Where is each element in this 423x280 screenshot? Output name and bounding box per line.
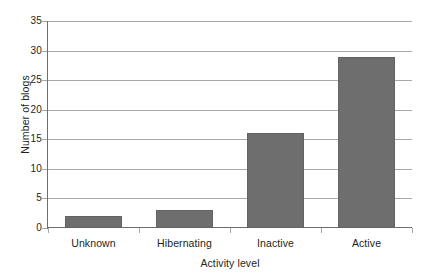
y-axis-tick-label: 35 xyxy=(6,16,42,26)
y-axis-tick-mark xyxy=(42,51,47,52)
gridline xyxy=(48,21,412,22)
y-axis-tick-mark xyxy=(42,198,47,199)
y-axis-tick-mark xyxy=(42,80,47,81)
y-axis-tick-label: 25 xyxy=(6,75,42,85)
x-axis-tick-mark xyxy=(230,228,231,233)
y-axis-tick-mark xyxy=(42,169,47,170)
y-axis-tick-label: 0 xyxy=(6,223,42,233)
y-axis-tick-mark xyxy=(42,139,47,140)
x-axis-tick-mark xyxy=(412,228,413,233)
y-axis-tick-mark xyxy=(42,110,47,111)
bar-unknown xyxy=(65,216,122,228)
y-axis-tick-label: 15 xyxy=(6,134,42,144)
x-axis-tick-label: Active xyxy=(321,236,412,250)
x-axis-tick-label: Inactive xyxy=(230,236,321,250)
y-axis-tick-label: 5 xyxy=(6,193,42,203)
y-axis-tick-label: 10 xyxy=(6,164,42,174)
y-axis-tick-label: 20 xyxy=(6,105,42,115)
y-axis-tick-label: 30 xyxy=(6,46,42,56)
bar-chart: Number of blogs 05101520253035 UnknownHi… xyxy=(0,0,423,280)
y-axis-tick-mark xyxy=(42,21,47,22)
x-axis-tick-label: Unknown xyxy=(48,236,139,250)
bar-inactive xyxy=(247,133,304,228)
bar-active xyxy=(338,57,395,229)
gridline xyxy=(48,51,412,52)
x-axis-tick-label: Hibernating xyxy=(139,236,230,250)
y-axis-tick-mark xyxy=(42,228,47,229)
bar-hibernating xyxy=(156,210,213,228)
x-axis-tick-mark xyxy=(139,228,140,233)
x-axis-tick-mark xyxy=(48,228,49,233)
x-axis-tick-mark xyxy=(321,228,322,233)
y-axis-tick-labels: 05101520253035 xyxy=(0,0,42,280)
plot-area xyxy=(48,21,412,228)
x-axis-title: Activity level xyxy=(48,256,412,270)
